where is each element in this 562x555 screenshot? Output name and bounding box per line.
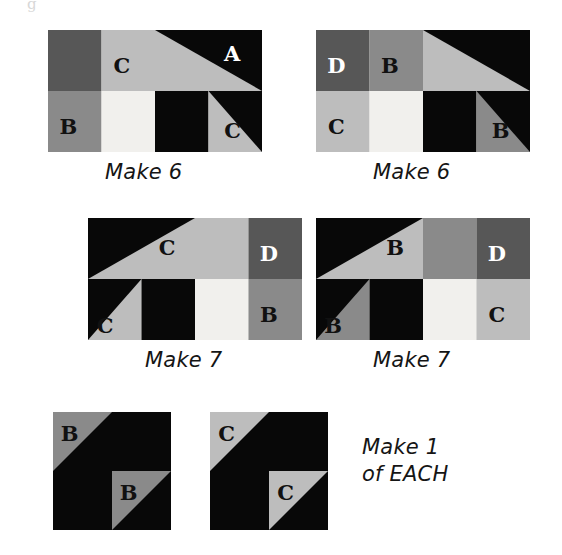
unit-top-right-hst-a bbox=[423, 30, 530, 91]
unit-bottom-b-label: B bbox=[59, 114, 77, 139]
unit-bottom-c-label: C bbox=[328, 114, 345, 139]
unit-bottom-right-b: B bbox=[249, 279, 303, 340]
unit-bottom-black bbox=[155, 91, 209, 152]
unit-top-left-hst: B bbox=[53, 412, 112, 471]
unit-bottom-black bbox=[142, 279, 196, 340]
block-3: CDCB bbox=[88, 218, 302, 340]
block-6: CC bbox=[210, 412, 328, 530]
unit-top-right-black bbox=[112, 412, 171, 471]
unit-bottom-c: C bbox=[316, 91, 370, 152]
block-4: BDBC bbox=[316, 218, 530, 340]
block-1-caption: Make 6 bbox=[105, 160, 182, 184]
unit-top-left-hst-a-label: B bbox=[386, 235, 404, 260]
unit-bottom-right-b: B bbox=[477, 91, 531, 152]
unit-bottom-bg bbox=[102, 91, 156, 152]
block-1: CABC bbox=[48, 30, 262, 152]
unit-top-left-hst: C bbox=[210, 412, 269, 471]
unit-bottom-right-b-label: B bbox=[492, 118, 510, 143]
block-2: DBCB bbox=[316, 30, 530, 152]
unit-bottom-left-black bbox=[210, 471, 269, 530]
block-2-caption: Make 6 bbox=[373, 160, 450, 184]
unit-top-right-d: D bbox=[477, 218, 531, 279]
unit-top-left-d-label: D bbox=[327, 53, 345, 78]
block-5: BB bbox=[53, 412, 171, 530]
unit-top-left-hst-label: B bbox=[61, 421, 79, 446]
unit-top-b bbox=[423, 218, 477, 279]
unit-bottom-bg bbox=[370, 91, 424, 152]
unit-bottom-left-c: C bbox=[88, 279, 142, 340]
partial-glyph: g bbox=[27, 0, 37, 13]
unit-bottom-black bbox=[423, 91, 477, 152]
unit-top-left-d bbox=[48, 30, 102, 91]
unit-top-left-hst-label: C bbox=[218, 421, 235, 446]
unit-top-right-d-label: D bbox=[260, 241, 278, 266]
unit-top-right-black bbox=[269, 412, 328, 471]
unit-top-right-hst-a-label: A bbox=[223, 41, 241, 66]
note-make-1-each-line: of EACH bbox=[362, 461, 448, 488]
diagram-canvas: g CABCMake 6DBCBMake 6CDCBMake 7BDBCMake… bbox=[0, 0, 562, 555]
unit-bottom-black bbox=[370, 279, 424, 340]
unit-bottom-right-hst-label: C bbox=[277, 480, 294, 505]
unit-top-left-hst-a: C bbox=[88, 218, 195, 279]
unit-bottom-left-c-label: C bbox=[97, 313, 114, 338]
block-3-caption: Make 7 bbox=[145, 348, 222, 372]
unit-top-c bbox=[195, 218, 249, 279]
unit-bottom-right-c: C bbox=[209, 91, 263, 152]
unit-top-left-hst-a-label: C bbox=[159, 235, 176, 260]
unit-top-right-hst-a: A bbox=[155, 30, 262, 91]
unit-bottom-right-hst: B bbox=[112, 471, 171, 530]
block-4-caption: Make 7 bbox=[373, 348, 450, 372]
unit-bottom-right-hst: C bbox=[269, 471, 328, 530]
unit-bottom-right-c-label: C bbox=[488, 302, 505, 327]
unit-top-c-label: C bbox=[113, 53, 130, 78]
unit-bottom-b: B bbox=[48, 91, 102, 152]
unit-bottom-right-c-label: C bbox=[224, 118, 241, 143]
unit-bottom-right-hst-label: B bbox=[120, 480, 138, 505]
unit-top-left-d: D bbox=[316, 30, 370, 91]
unit-bottom-right-c: C bbox=[477, 279, 531, 340]
note-make-1-each-line: Make 1 bbox=[362, 434, 448, 461]
unit-bottom-left-b: B bbox=[316, 279, 370, 340]
unit-top-b: B bbox=[370, 30, 424, 91]
note-make-1-each: Make 1of EACH bbox=[362, 434, 448, 488]
unit-top-right-d: D bbox=[249, 218, 303, 279]
unit-top-b-label: B bbox=[381, 53, 399, 78]
unit-top-c: C bbox=[102, 30, 156, 91]
unit-bottom-right-b-label: B bbox=[260, 302, 278, 327]
unit-bottom-bg bbox=[195, 279, 249, 340]
unit-bottom-left-b-label: B bbox=[324, 313, 342, 338]
unit-top-right-d-label: D bbox=[488, 241, 506, 266]
unit-top-left-hst-a: B bbox=[316, 218, 423, 279]
unit-bottom-left-black bbox=[53, 471, 112, 530]
unit-bottom-bg bbox=[423, 279, 477, 340]
